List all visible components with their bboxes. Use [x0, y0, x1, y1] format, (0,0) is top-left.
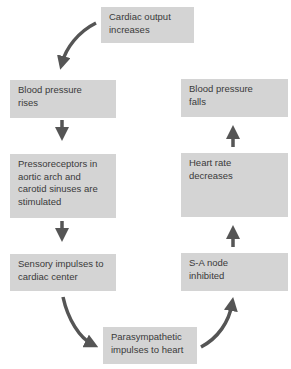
- node-label: Parasympathetic impulses to heart: [111, 331, 197, 356]
- arrow-sensory-to-parasympathetic: [63, 297, 92, 344]
- node-label: S-A node inhibited: [189, 257, 288, 282]
- node-sensory-impulses: Sensory impulses to cardiac center: [10, 254, 116, 291]
- node-cardiac-output: Cardiac output increases: [101, 7, 194, 43]
- node-label: Heart rate decreases: [189, 157, 288, 182]
- arrow-parasympathetic-to-sa-node: [201, 304, 232, 347]
- node-label: Blood pressure rises: [18, 84, 116, 109]
- node-label: Sensory impulses to cardiac center: [18, 258, 116, 283]
- node-pressoreceptors: Pressoreceptors in aortic arch and carot…: [10, 154, 116, 218]
- node-bp-rises: Blood pressure rises: [10, 80, 116, 118]
- arrow-cardiac-to-bp-rises: [62, 23, 96, 63]
- node-heart-rate: Heart rate decreases: [181, 153, 288, 217]
- node-parasympathetic: Parasympathetic impulses to heart: [103, 327, 197, 364]
- node-sa-node: S-A node inhibited: [181, 253, 288, 291]
- node-bp-falls: Blood pressure falls: [181, 79, 288, 117]
- node-label: Pressoreceptors in aortic arch and carot…: [18, 158, 116, 208]
- node-label: Blood pressure falls: [189, 83, 288, 108]
- node-label: Cardiac output increases: [109, 11, 194, 36]
